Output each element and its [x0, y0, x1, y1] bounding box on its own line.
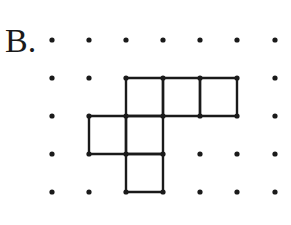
grid-dot	[49, 151, 54, 156]
grid-dot	[197, 151, 202, 156]
grid-dot	[86, 113, 91, 118]
grid-dot	[234, 75, 239, 80]
grid-dot	[197, 37, 202, 42]
grid-dot	[49, 113, 54, 118]
grid-dot	[234, 37, 239, 42]
grid-dot	[123, 37, 128, 42]
net-square	[126, 116, 163, 154]
grid-dot	[234, 189, 239, 194]
grid-dot	[160, 189, 165, 194]
cube-net-shape	[89, 78, 237, 192]
net-square	[126, 154, 163, 192]
grid-dot	[197, 189, 202, 194]
grid-dot	[234, 151, 239, 156]
grid-dot	[49, 37, 54, 42]
grid-dot	[234, 113, 239, 118]
grid-dot	[86, 75, 91, 80]
net-square	[163, 78, 200, 116]
net-square	[126, 78, 163, 116]
grid-dot	[49, 189, 54, 194]
grid-dot	[197, 113, 202, 118]
grid-dot	[86, 151, 91, 156]
grid-dot	[86, 37, 91, 42]
grid-dot	[197, 75, 202, 80]
grid-dot	[272, 37, 277, 42]
grid-dot	[272, 151, 277, 156]
grid-dot	[160, 151, 165, 156]
grid-dot	[272, 75, 277, 80]
grid-dot	[272, 189, 277, 194]
grid-dot	[160, 37, 165, 42]
grid-dot	[123, 113, 128, 118]
grid-dot	[49, 75, 54, 80]
grid-dot	[160, 75, 165, 80]
grid-dot	[160, 113, 165, 118]
grid-dot	[123, 189, 128, 194]
net-square	[89, 116, 126, 154]
dot-grid-diagram	[0, 0, 291, 225]
net-square	[200, 78, 237, 116]
grid-dot	[123, 151, 128, 156]
grid-dot	[123, 75, 128, 80]
grid-dot	[86, 189, 91, 194]
grid-dot	[272, 113, 277, 118]
